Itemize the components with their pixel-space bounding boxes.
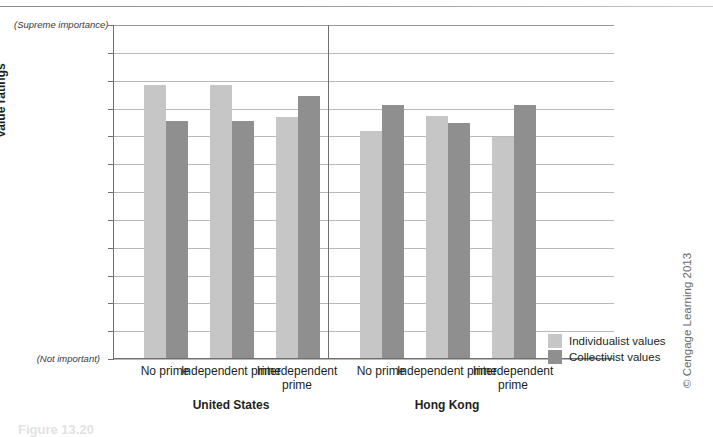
- y-tick-1: [108, 359, 114, 360]
- gridline-6: [114, 81, 614, 82]
- y-tick-4: [108, 192, 114, 193]
- legend-label-1: Collectivist values: [569, 351, 660, 363]
- bar-individualist-5: [492, 137, 514, 358]
- panel-divider: [328, 25, 329, 359]
- legend-swatch-0: [548, 334, 562, 348]
- bar-individualist-2: [276, 117, 298, 358]
- gridline-7: [114, 25, 614, 26]
- y-axis-title: Value ratings: [0, 63, 8, 138]
- y-tick-7: [108, 25, 114, 26]
- plot-area: [113, 25, 613, 359]
- bar-collectivist-0: [166, 121, 188, 358]
- chart-legend: Individualist valuesCollectivist values: [548, 333, 666, 365]
- bar-individualist-1: [210, 85, 232, 358]
- y-tick-4.5: [108, 164, 114, 165]
- y-tick-1.5: [108, 331, 114, 332]
- y-tick-5.5: [108, 109, 114, 110]
- page-footer-ghost-text: Figure 13.20: [18, 422, 94, 437]
- legend-label-0: Individualist values: [569, 335, 666, 347]
- legend-item-1: Collectivist values: [548, 349, 666, 365]
- bar-collectivist-5: [514, 105, 536, 358]
- y-tick-3: [108, 248, 114, 249]
- bar-collectivist-1: [232, 121, 254, 358]
- bar-individualist-4: [426, 116, 448, 358]
- gridline-6.5: [114, 53, 614, 54]
- bar-collectivist-4: [448, 123, 470, 358]
- axis-note-not-important: (Not important): [14, 353, 100, 364]
- panel-label-hong-kong: Hong Kong: [337, 398, 557, 412]
- panel-label-united-states: United States: [121, 398, 341, 412]
- bar-collectivist-3: [382, 105, 404, 358]
- y-tick-3.5: [108, 220, 114, 221]
- gridline-5.5: [114, 109, 614, 110]
- bar-collectivist-2: [298, 96, 320, 358]
- legend-swatch-1: [548, 350, 562, 364]
- y-tick-2.5: [108, 276, 114, 277]
- gridline-1: [114, 359, 614, 360]
- y-tick-2: [108, 303, 114, 304]
- axis-note-supreme-importance: (Supreme importance): [14, 19, 100, 30]
- legend-item-0: Individualist values: [548, 333, 666, 349]
- y-tick-6.5: [108, 53, 114, 54]
- copyright-credit: © Cengage Learning 2013: [681, 253, 693, 388]
- bar-individualist-3: [360, 131, 382, 358]
- bar-individualist-0: [144, 85, 166, 358]
- category-label-5: Interdependent prime: [461, 364, 565, 392]
- y-tick-6: [108, 81, 114, 82]
- y-tick-5: [108, 136, 114, 137]
